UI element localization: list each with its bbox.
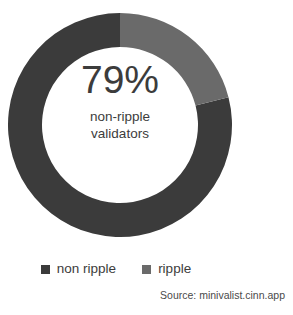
legend-swatch-icon-ripple [142, 265, 151, 274]
legend-label-ripple: ripple [158, 261, 191, 277]
donut-chart-figure: 79% non-ripple validators non ripple rip… [0, 0, 293, 315]
chart-legend: non ripple ripple [0, 261, 232, 277]
legend-item-non-ripple[interactable]: non ripple [41, 261, 116, 277]
legend-label-non-ripple: non ripple [57, 261, 116, 277]
source-note: Source: minivalist.cinn.app [160, 289, 285, 302]
legend-item-ripple[interactable]: ripple [142, 261, 191, 277]
donut-slice-ripple[interactable] [120, 13, 228, 106]
donut-svg [8, 13, 232, 237]
donut-chart [8, 13, 232, 237]
legend-swatch-icon-non-ripple [41, 265, 50, 274]
